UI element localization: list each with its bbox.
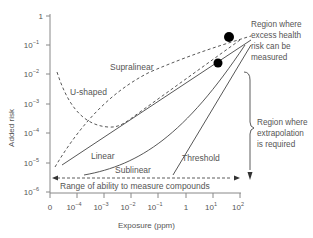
sublinear-label: Sublinear (115, 165, 151, 175)
svg-text:extrapolation: extrapolation (257, 129, 304, 138)
y-axis (46, 14, 50, 193)
svg-text:10−3: 10−3 (24, 98, 39, 109)
y-tick-labels: 1 10−1 10−2 10−3 10−4 10−5 10−6 (24, 12, 44, 197)
svg-text:102: 102 (232, 201, 244, 212)
range-arrow: Range of ability to measure compounds (52, 176, 240, 192)
linear-curve (62, 40, 251, 165)
svg-text:Region where: Region where (251, 20, 302, 29)
svg-text:excess health: excess health (251, 31, 302, 40)
svg-text:10−5: 10−5 (24, 157, 39, 168)
svg-text:risk can be: risk can be (251, 42, 291, 51)
svg-text:10−3: 10−3 (93, 201, 108, 212)
svg-text:10−1: 10−1 (24, 39, 39, 50)
dose-response-chart: 1 10−1 10−2 10−3 10−4 10−5 10−6 0 10−4 1… (0, 0, 313, 238)
svg-text:10−1: 10−1 (147, 201, 162, 212)
svg-text:10−4: 10−4 (24, 127, 39, 138)
x-axis-title: Exposure (ppm) (118, 221, 175, 230)
x-axis (50, 193, 241, 198)
region-measured-annotation: Region where excess health risk can be m… (251, 20, 302, 62)
extrapolation-bracket (244, 72, 254, 180)
svg-text:1: 1 (39, 12, 44, 21)
svg-text:is required: is required (257, 140, 296, 149)
y-axis-title: Added risk (7, 108, 16, 147)
svg-text:Range of ability to measure co: Range of ability to measure compounds (60, 181, 210, 191)
u-shaped-label: U-shaped (70, 87, 107, 97)
svg-text:101: 101 (205, 201, 217, 212)
svg-text:measured: measured (251, 53, 288, 62)
threshold-label: Threshold (182, 153, 220, 163)
u-shaped-curve (57, 40, 240, 127)
supralinear-label: Supralinear (110, 62, 154, 72)
svg-text:10−6: 10−6 (24, 186, 39, 197)
curves (55, 36, 251, 175)
region-extrapolation-annotation: Region where extrapolation is required (257, 118, 308, 149)
svg-text:10−2: 10−2 (24, 68, 39, 79)
data-point (224, 32, 234, 42)
svg-text:1: 1 (184, 203, 189, 212)
svg-text:10−2: 10−2 (120, 201, 135, 212)
data-point (214, 59, 223, 68)
x-tick-labels: 0 10−4 10−3 10−2 10−1 1 101 102 (48, 201, 244, 212)
linear-label: Linear (91, 151, 115, 161)
svg-text:0: 0 (48, 203, 53, 212)
svg-text:Region where: Region where (257, 118, 308, 127)
svg-text:10−4: 10−4 (66, 201, 81, 212)
